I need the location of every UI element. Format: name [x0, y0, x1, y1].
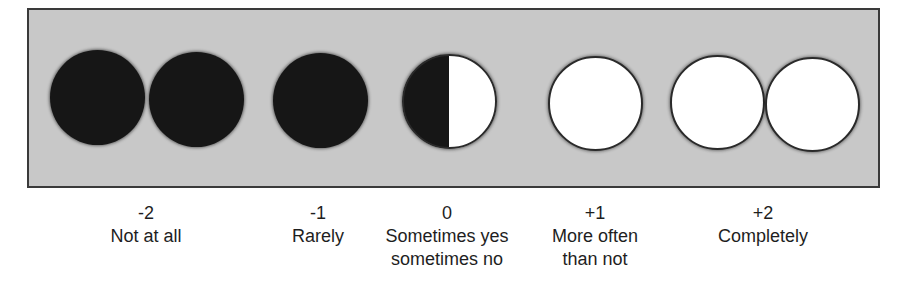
scale-label-minus-2: -2 Not at all	[56, 202, 236, 248]
dot-empty-1	[548, 56, 643, 151]
dot-filled-2	[149, 52, 244, 147]
dot-empty-2	[670, 55, 765, 150]
scale-value: -2	[56, 202, 236, 225]
dot-filled-1	[50, 50, 145, 145]
scale-text-line1: Completely	[673, 225, 853, 248]
scale-label-plus-1: +1 More often than not	[505, 202, 685, 271]
scale-value: +2	[673, 202, 853, 225]
dot-filled-3	[273, 53, 368, 148]
scale-text-line1: More often	[505, 225, 685, 248]
scale-text-line1: Not at all	[56, 225, 236, 248]
dot-empty-3	[765, 57, 860, 152]
scale-value: +1	[505, 202, 685, 225]
scale-text-line2: than not	[505, 248, 685, 271]
dot-half-filled	[402, 54, 497, 149]
scale-label-plus-2: +2 Completely	[673, 202, 853, 248]
